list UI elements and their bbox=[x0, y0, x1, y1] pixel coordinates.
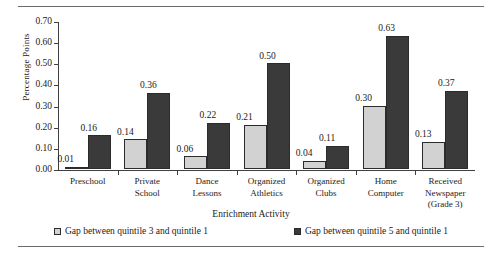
y-axis-tick-mark bbox=[54, 43, 58, 44]
chart-legend: Gap between quintile 3 and quintile 1Gap… bbox=[0, 226, 502, 236]
plot-area: 0.000.100.200.300.400.500.600.70 0.010.1… bbox=[58, 22, 475, 170]
bar bbox=[422, 142, 445, 169]
bar-group: 0.300.63 bbox=[361, 21, 411, 169]
x-axis-tick-mark bbox=[237, 171, 238, 175]
y-axis-tick-mark bbox=[54, 107, 58, 108]
bar bbox=[147, 93, 170, 169]
bar-value-label: 0.63 bbox=[366, 24, 408, 34]
y-axis-tick-mark bbox=[54, 128, 58, 129]
bottom-rule bbox=[18, 246, 484, 247]
bar-value-label: 0.13 bbox=[402, 130, 444, 140]
bar-value-label: 0.01 bbox=[45, 155, 87, 165]
y-axis-line bbox=[58, 22, 59, 171]
x-axis-tick-mark bbox=[415, 171, 416, 175]
y-axis-tick-label: 0.60 bbox=[12, 38, 52, 48]
legend-entry: Gap between quintile 3 and quintile 1 bbox=[54, 226, 208, 236]
bar-value-label: 0.04 bbox=[283, 149, 325, 159]
x-axis-category-label: ReceivedNewspaper(Grade 3) bbox=[408, 176, 482, 211]
y-axis-tick-mark bbox=[54, 22, 58, 23]
y-axis-tick-label: 0.00 bbox=[12, 165, 52, 175]
x-axis-line bbox=[58, 170, 475, 171]
bar-value-label: 0.21 bbox=[224, 113, 266, 123]
bar bbox=[184, 156, 207, 169]
bar-value-label: 0.36 bbox=[127, 81, 169, 91]
y-axis-tick-label: 0.70 bbox=[12, 17, 52, 27]
bar-group: 0.130.37 bbox=[420, 21, 470, 169]
bar bbox=[124, 139, 147, 169]
x-axis-tick-mark bbox=[296, 171, 297, 175]
bar-value-label: 0.50 bbox=[247, 52, 289, 62]
y-axis-tick-label: 0.40 bbox=[12, 81, 52, 91]
bar bbox=[326, 146, 349, 169]
y-axis-tick-label: 0.20 bbox=[12, 123, 52, 133]
y-axis-tick-label: 0.10 bbox=[12, 144, 52, 154]
bar bbox=[363, 106, 386, 169]
figure: Percentage Points 0.000.100.200.300.400.… bbox=[0, 0, 502, 256]
y-axis-tick-mark bbox=[54, 85, 58, 86]
bar-value-label: 0.37 bbox=[425, 79, 467, 89]
bar-value-label: 0.11 bbox=[306, 134, 348, 144]
bar bbox=[445, 91, 468, 169]
y-axis-tick-mark bbox=[54, 149, 58, 150]
bar-value-label: 0.14 bbox=[104, 128, 146, 138]
legend-swatch-icon bbox=[294, 228, 301, 235]
bar bbox=[207, 123, 230, 170]
x-axis-tick-mark bbox=[356, 171, 357, 175]
bar-value-label: 0.06 bbox=[164, 145, 206, 155]
bar-group: 0.060.22 bbox=[182, 21, 232, 169]
y-axis-tick-mark bbox=[54, 170, 58, 171]
legend-label: Gap between quintile 5 and quintile 1 bbox=[305, 226, 448, 236]
bar-group: 0.210.50 bbox=[242, 21, 292, 169]
x-axis-tick-mark bbox=[177, 171, 178, 175]
legend-swatch-icon bbox=[54, 228, 61, 235]
y-axis-tick-label: 0.30 bbox=[12, 102, 52, 112]
bar bbox=[65, 167, 88, 169]
bar bbox=[386, 36, 409, 169]
legend-label: Gap between quintile 3 and quintile 1 bbox=[65, 226, 208, 236]
legend-entry: Gap between quintile 5 and quintile 1 bbox=[294, 226, 448, 236]
top-rule bbox=[18, 6, 484, 7]
bar bbox=[244, 125, 267, 169]
x-axis-title: Enrichment Activity bbox=[0, 209, 502, 219]
bar-value-label: 0.30 bbox=[343, 94, 385, 104]
y-axis-tick-mark bbox=[54, 64, 58, 65]
y-axis-tick-label: 0.50 bbox=[12, 60, 52, 70]
bar bbox=[88, 135, 111, 169]
bar bbox=[303, 161, 326, 169]
bar-group: 0.010.16 bbox=[63, 21, 113, 169]
x-axis-tick-mark bbox=[118, 171, 119, 175]
